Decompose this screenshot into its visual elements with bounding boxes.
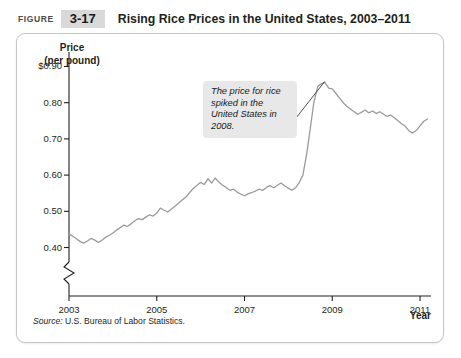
y-axis-break-icon [64, 262, 74, 284]
figure-title: Rising Rice Prices in the United States,… [118, 12, 411, 26]
figure-word-label: Figure [18, 14, 54, 24]
x-tick-label: 2007 [223, 304, 267, 315]
y-tick-label: 0.60 [16, 169, 62, 180]
figure-panel: Price (per pound) Year 0.400.500.600.700… [16, 33, 444, 343]
y-tick-label: 0.70 [16, 133, 62, 144]
y-tick-label: 0.40 [16, 242, 62, 253]
x-tick-label: 2005 [135, 304, 179, 315]
x-tick-label: 2011 [398, 304, 442, 315]
annotation-callout: The price for rice spiked in the United … [203, 81, 297, 138]
y-axis-ticks [64, 66, 69, 247]
source-text: U.S. Bureau of Labor Statistics. [65, 316, 185, 326]
source-label: Source: [33, 316, 63, 326]
figure-header: Figure 3-17 Rising Rice Prices in the Un… [0, 8, 461, 30]
x-tick-label: 2009 [310, 304, 354, 315]
chart-plot-area: Price (per pound) Year 0.400.500.600.700… [17, 34, 445, 344]
annotation-leader-line [296, 81, 325, 118]
y-tick-label: $0.90 [16, 60, 62, 71]
y-tick-label: 0.50 [16, 205, 62, 216]
x-axis-ticks [69, 296, 420, 301]
y-tick-label: 0.80 [16, 97, 62, 108]
y-axis-title-line1: Price [29, 42, 115, 55]
figure-number-badge: 3-17 [61, 10, 105, 28]
x-tick-label: 2003 [47, 304, 91, 315]
source-note: Source: U.S. Bureau of Labor Statistics. [33, 316, 185, 326]
